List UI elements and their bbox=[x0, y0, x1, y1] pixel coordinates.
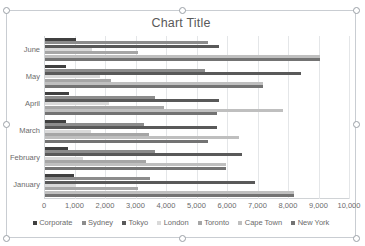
legend-item[interactable]: Corporate bbox=[33, 218, 73, 227]
legend-swatch-icon bbox=[157, 221, 161, 225]
category-label: March bbox=[19, 126, 40, 135]
legend-swatch-icon bbox=[238, 221, 242, 225]
value-tick-label: 3,000 bbox=[126, 201, 145, 210]
bar-new-york[interactable] bbox=[45, 167, 226, 170]
resize-handle-middle-left[interactable] bbox=[3, 121, 10, 128]
bar-group bbox=[45, 36, 349, 63]
legend-label: Corporate bbox=[39, 218, 72, 227]
legend-swatch-icon bbox=[33, 221, 37, 225]
value-tick-label: 7,000 bbox=[248, 201, 267, 210]
value-tick-label: 8,000 bbox=[279, 201, 298, 210]
value-tick-label: 4,000 bbox=[157, 201, 176, 210]
bar-new-york[interactable] bbox=[45, 58, 320, 61]
legend-label: Tokyo bbox=[129, 218, 149, 227]
resize-handle-top-right[interactable] bbox=[353, 7, 360, 14]
legend-item[interactable]: Sydney bbox=[82, 218, 114, 227]
legend-item[interactable]: Cape Town bbox=[238, 218, 282, 227]
category-label: June bbox=[24, 45, 40, 54]
value-tick-label: 10,000 bbox=[338, 201, 361, 210]
legend-swatch-icon bbox=[198, 221, 202, 225]
plot-area[interactable] bbox=[44, 36, 349, 199]
value-tick-label: 6,000 bbox=[218, 201, 237, 210]
category-label: May bbox=[26, 72, 40, 81]
bar-group bbox=[45, 145, 349, 172]
bar-new-york[interactable] bbox=[45, 140, 208, 143]
resize-handle-bottom-left[interactable] bbox=[3, 235, 10, 242]
bar-tokyo[interactable] bbox=[45, 181, 255, 184]
legend-label: Cape Town bbox=[245, 218, 282, 227]
resize-handle-bottom-right[interactable] bbox=[353, 235, 360, 242]
legend-item[interactable]: London bbox=[157, 218, 189, 227]
bar-group bbox=[45, 118, 349, 145]
legend-label: Sydney bbox=[88, 218, 113, 227]
legend-item[interactable]: Toronto bbox=[198, 218, 230, 227]
legend-item[interactable]: New York bbox=[291, 218, 329, 227]
legend-label: London bbox=[164, 218, 189, 227]
chart-object[interactable]: Chart Title JuneMayAprilMarchFebruaryJan… bbox=[0, 0, 365, 246]
bar-new-york[interactable] bbox=[45, 85, 263, 88]
legend-item[interactable]: Tokyo bbox=[122, 218, 148, 227]
legend-label: New York bbox=[298, 218, 330, 227]
resize-handle-top-left[interactable] bbox=[3, 7, 10, 14]
chart-legend[interactable]: CorporateSydneyTokyoLondonTorontoCape To… bbox=[6, 218, 356, 227]
category-label: January bbox=[13, 180, 40, 189]
bar-group bbox=[45, 63, 349, 90]
gridline bbox=[349, 36, 350, 199]
value-tick-label: 2,000 bbox=[96, 201, 115, 210]
value-tick-label: 9,000 bbox=[309, 201, 328, 210]
resize-handle-bottom-center[interactable] bbox=[179, 235, 186, 242]
legend-swatch-icon bbox=[291, 221, 295, 225]
legend-swatch-icon bbox=[82, 221, 86, 225]
resize-handle-top-center[interactable] bbox=[179, 7, 186, 14]
bar-new-york[interactable] bbox=[45, 112, 217, 115]
bar-group bbox=[45, 172, 349, 199]
value-tick-label: 0 bbox=[42, 201, 46, 210]
legend-label: Toronto bbox=[204, 218, 229, 227]
legend-swatch-icon bbox=[122, 221, 126, 225]
category-label: April bbox=[25, 99, 40, 108]
bar-new-york[interactable] bbox=[45, 194, 294, 197]
category-axis: JuneMayAprilMarchFebruaryJanuary bbox=[0, 36, 40, 199]
value-axis-labels: 01,0002,0003,0004,0005,0006,0007,0008,00… bbox=[44, 201, 349, 213]
value-tick-label: 5,000 bbox=[187, 201, 206, 210]
resize-handle-middle-right[interactable] bbox=[353, 121, 360, 128]
bar-group bbox=[45, 90, 349, 117]
value-tick-label: 1,000 bbox=[65, 201, 84, 210]
category-label: February bbox=[10, 153, 40, 162]
chart-title[interactable]: Chart Title bbox=[6, 16, 356, 30]
